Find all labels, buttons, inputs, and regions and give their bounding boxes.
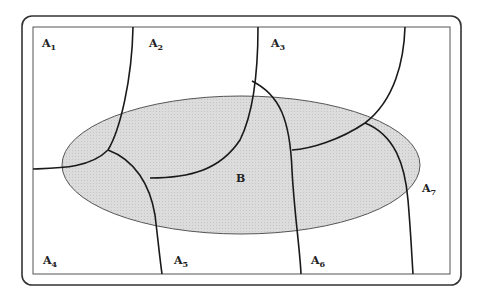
label-a7: A7 <box>421 182 436 197</box>
label-a5: A5 <box>173 254 188 269</box>
label-a4: A4 <box>42 254 58 269</box>
partition-diagram: A1 A2 A3 A4 A5 A6 A7 B <box>0 0 483 301</box>
label-a6: A6 <box>310 254 326 269</box>
label-a2: A2 <box>148 37 163 52</box>
event-b-ellipse <box>62 96 420 234</box>
label-a3: A3 <box>270 37 286 52</box>
label-b: B <box>236 172 245 185</box>
label-a1: A1 <box>41 37 56 52</box>
